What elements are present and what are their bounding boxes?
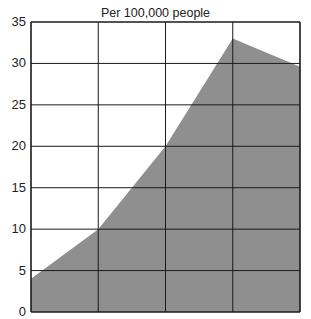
area-chart (0, 0, 311, 314)
